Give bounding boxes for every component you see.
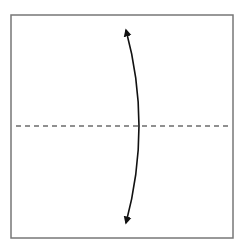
origami-diagram bbox=[0, 0, 243, 243]
